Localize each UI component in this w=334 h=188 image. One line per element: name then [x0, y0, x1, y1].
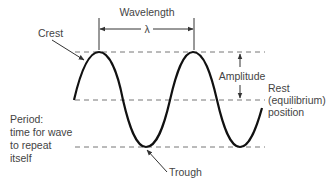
wave-diagram: Wavelength λ Crest Amplitude Rest (equil…	[0, 0, 334, 188]
wavelength-label: Wavelength	[119, 6, 174, 18]
wave-diagram-svg: Wavelength λ Crest Amplitude Rest (equil…	[0, 0, 334, 188]
period-label-line2: time for wave	[10, 126, 73, 138]
crest-pointer	[52, 40, 84, 60]
period-label-line1: Period:	[10, 113, 43, 125]
rest-label-line3: position	[268, 106, 304, 118]
crest-label: Crest	[38, 27, 63, 39]
trough-label: Trough	[169, 166, 202, 178]
amplitude-label: Amplitude	[219, 70, 266, 82]
period-label-line4: itself	[10, 152, 32, 164]
trough-pointer	[147, 150, 167, 172]
rest-label-line2: (equilibrium)	[268, 94, 326, 106]
rest-label-line1: Rest	[268, 82, 290, 94]
period-label-line3: to repeat	[10, 139, 52, 151]
lambda-symbol: λ	[144, 23, 150, 35]
